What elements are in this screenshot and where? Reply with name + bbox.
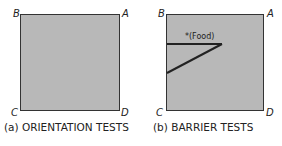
panel-orientation-tests: B A C D (a) ORIENTATION TESTS [0, 0, 141, 146]
corner-label-c: C [156, 107, 163, 118]
corner-label-c: C [11, 107, 18, 118]
panel-barrier-tests: B A *(Food) C D (b) BARRIER TESTS [141, 0, 282, 146]
arena-square [20, 14, 120, 111]
corner-label-d: D [266, 107, 274, 118]
food-label: *(Food) [185, 32, 214, 41]
corner-label-d: D [121, 107, 129, 118]
caption: (a) ORIENTATION TESTS [4, 121, 129, 133]
caption: (b) BARRIER TESTS [153, 121, 253, 133]
corner-label-b: B [13, 8, 20, 19]
corner-label-a: A [122, 8, 129, 19]
